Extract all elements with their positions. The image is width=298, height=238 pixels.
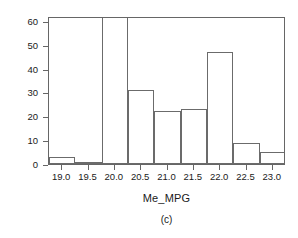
- x-tick-label: 19.5: [78, 172, 97, 182]
- y-tick-label: 30: [27, 89, 38, 99]
- x-tick-label: 19.0: [52, 172, 71, 182]
- histogram-bar: [75, 162, 101, 164]
- x-tick-mark: [193, 165, 194, 170]
- histogram-bar: [102, 17, 128, 164]
- x-axis-ticks: 19.019.520.020.521.021.522.022.523.0: [48, 165, 285, 195]
- histogram-bar: [154, 111, 180, 164]
- x-tick-mark: [88, 165, 89, 170]
- y-tick-mark: [43, 46, 48, 47]
- histogram-bar: [207, 52, 233, 164]
- y-tick-label: 40: [27, 65, 38, 75]
- y-tick-label: 20: [27, 113, 38, 123]
- x-axis-title: Me_MPG: [48, 192, 285, 204]
- x-tick-label: 22.5: [236, 172, 255, 182]
- y-tick-mark: [43, 165, 48, 166]
- y-axis-tick-labels: 0102030405060: [18, 14, 38, 168]
- histogram-bar: [260, 152, 285, 164]
- y-tick-label: 10: [27, 136, 38, 146]
- histogram-bar: [181, 109, 207, 164]
- histogram-bar: [233, 143, 259, 164]
- y-tick-mark: [43, 93, 48, 94]
- x-tick-mark: [219, 165, 220, 170]
- y-tick-label: 50: [27, 41, 38, 51]
- x-tick-label: 20.5: [131, 172, 150, 182]
- plot-area: [48, 17, 285, 165]
- x-tick-label: 22.0: [210, 172, 229, 182]
- y-tick-mark: [43, 117, 48, 118]
- x-tick-label: 21.0: [157, 172, 176, 182]
- x-tick-label: 20.0: [105, 172, 124, 182]
- x-tick-label: 23.0: [263, 172, 282, 182]
- x-tick-mark: [167, 165, 168, 170]
- histogram-bar: [128, 90, 154, 164]
- x-tick-mark: [114, 165, 115, 170]
- x-tick-label: 21.5: [184, 172, 203, 182]
- y-tick-mark: [43, 70, 48, 71]
- histogram-bar: [49, 157, 75, 164]
- x-tick-mark: [140, 165, 141, 170]
- y-tick-label: 60: [27, 17, 38, 27]
- x-tick-mark: [272, 165, 273, 170]
- x-tick-mark: [246, 165, 247, 170]
- figure-caption: (c): [48, 214, 285, 225]
- x-tick-mark: [61, 165, 62, 170]
- y-tick-mark: [43, 22, 48, 23]
- histogram-figure: Frequency 0102030405060 19.019.520.020.5…: [0, 0, 298, 238]
- y-tick-mark: [43, 141, 48, 142]
- y-tick-label: 0: [33, 160, 38, 170]
